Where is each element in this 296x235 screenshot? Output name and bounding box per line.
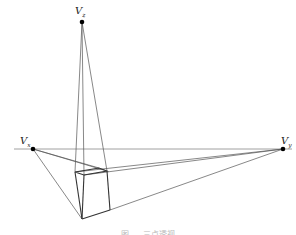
vy-construction-lines [75,149,283,210]
label-vz: Vz [75,6,85,18]
label-vy: Vy [281,136,292,148]
vanishing-point-x [31,147,36,152]
perspective-diagram [0,0,296,235]
figure-caption: 图 … 三点透视 [0,228,296,235]
vz-construction-lines [75,22,107,175]
label-vy-sub: y [288,141,291,148]
label-vx: Vx [20,136,31,148]
label-vx-sub: x [27,141,30,148]
label-vz-sub: z [82,11,85,18]
vanishing-point-z [80,20,85,25]
perspective-box [75,168,110,219]
vx-construction-lines [33,149,107,219]
